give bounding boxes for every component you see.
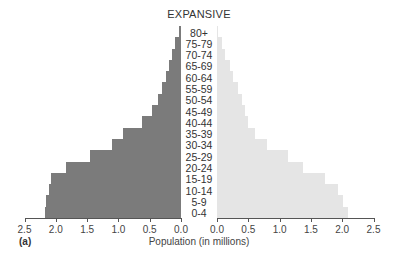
bar-right-35-39	[217, 128, 255, 140]
right-axis-tick	[374, 218, 375, 222]
right-axis-tick-label: 2.0	[335, 224, 349, 235]
left-axis-tick	[118, 218, 119, 222]
bar-right-45-49	[217, 105, 245, 117]
right-axis-tick	[342, 218, 343, 222]
bar-right-20-24	[217, 162, 303, 174]
left-axis-tick	[87, 218, 88, 222]
bar-right-50-54	[217, 94, 242, 106]
bar-left-20-24	[66, 162, 181, 174]
right-axis-tick-label: 0.5	[241, 224, 255, 235]
x-axis-label: Population (in millions)	[149, 236, 250, 247]
right-axis-tick	[217, 218, 218, 222]
right-axis-tick	[311, 218, 312, 222]
bar-right-10-14	[217, 184, 338, 196]
right-axis-tick-label: 2.5	[367, 224, 381, 235]
left-axis-tick-label: 1.0	[111, 224, 125, 235]
bar-left-65-69	[169, 60, 181, 72]
left-x-axis	[25, 218, 183, 219]
bar-right-15-19	[217, 173, 325, 185]
left-axis-tick-label: 2.0	[49, 224, 63, 235]
bar-left-10-14	[49, 184, 181, 196]
left-axis-tick	[25, 218, 26, 222]
bar-left-25-29	[90, 150, 181, 162]
right-x-axis	[217, 218, 375, 219]
right-axis-tick-label: 1.5	[304, 224, 318, 235]
bar-left-45-49	[152, 105, 181, 117]
right-axis-tick	[248, 218, 249, 222]
bar-left-55-59	[162, 82, 181, 94]
bar-left-70-74	[172, 49, 181, 61]
bar-right-55-59	[217, 82, 238, 94]
right-axis-tick-label: 1.0	[273, 224, 287, 235]
bar-left-50-54	[158, 94, 181, 106]
left-axis-tick-label: 2.5	[18, 224, 32, 235]
left-axis-tick	[56, 218, 57, 222]
bar-right-80+	[217, 26, 218, 38]
age-group-label: 0-4	[181, 207, 217, 220]
bar-right-25-29	[217, 150, 288, 162]
bar-right-70-74	[217, 49, 225, 61]
left-axis-tick	[181, 218, 182, 222]
bar-right-75-79	[217, 37, 222, 49]
bar-right-5-9	[217, 195, 343, 207]
right-axis-tick	[280, 218, 281, 222]
bar-left-15-19	[51, 173, 181, 185]
left-axis-tick-label: 1.5	[80, 224, 94, 235]
bar-left-0-4	[45, 207, 181, 219]
bar-right-30-34	[217, 139, 267, 151]
bar-right-40-44	[217, 116, 248, 128]
bar-left-30-34	[112, 139, 181, 151]
bar-right-60-64	[217, 71, 233, 83]
pyramid-plot-area: 80+75-7970-7465-6960-6455-5950-5445-4940…	[0, 0, 393, 262]
bar-left-40-44	[142, 116, 181, 128]
bar-left-35-39	[123, 128, 181, 140]
right-axis-tick-label: 0.0	[210, 224, 224, 235]
bar-right-0-4	[217, 207, 348, 219]
bar-left-5-9	[46, 195, 181, 207]
bar-left-60-64	[166, 71, 181, 83]
left-axis-tick-label: 0.0	[174, 224, 188, 235]
bar-right-65-69	[217, 60, 230, 72]
left-axis-tick	[150, 218, 151, 222]
left-axis-tick-label: 0.5	[143, 224, 157, 235]
panel-label: (a)	[19, 236, 31, 247]
